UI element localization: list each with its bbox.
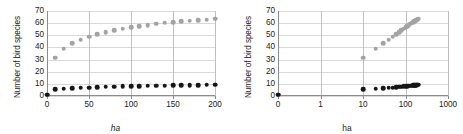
data-point [213,17,218,22]
data-point [179,83,184,88]
data-point [361,55,366,60]
plot-area-log [278,11,448,96]
data-point [204,83,209,88]
data-point [95,32,100,37]
x-tick-mark [131,96,132,99]
y-tick-label: 10 [255,80,275,88]
data-point [188,83,193,88]
data-point [146,84,151,89]
data-point [381,86,386,91]
data-point [162,20,167,25]
x-tick-label: 100 [116,100,146,109]
data-point [204,17,209,22]
species-area-figure: Number of bird species 010203040506070 0… [0,0,463,134]
data-point [373,86,378,91]
y-tick-label: 30 [24,56,44,64]
gridline-vertical [448,11,449,96]
data-point [171,20,176,25]
data-point [416,17,421,22]
data-point [213,82,218,87]
data-point [104,85,109,90]
y-tick-label: 10 [24,80,44,88]
data-point [87,85,92,90]
y-tick-label: 40 [24,43,44,51]
x-tick-mark [363,96,364,99]
x-tick-mark [215,96,216,99]
data-point [179,19,184,24]
data-point [112,84,117,89]
data-point [95,85,100,90]
y-tick-label: 0 [255,92,275,100]
y-tick-label: 50 [255,31,275,39]
data-point [373,46,378,51]
data-point [137,84,142,89]
y-tick-label: 60 [255,19,275,27]
y-tick-label: 60 [24,19,44,27]
data-point [196,18,201,23]
x-tick-label: 0 [32,100,62,109]
x-axis-title: ha [0,123,231,133]
data-point [196,83,201,88]
data-point [70,86,75,91]
x-tick-mark [89,96,90,99]
y-tick-label: 50 [24,31,44,39]
y-axis-line [47,11,48,96]
data-point [120,26,125,31]
data-point [70,41,75,46]
gridline-vertical [321,11,322,96]
data-point [129,25,134,30]
data-point [112,28,117,33]
data-point [53,55,58,60]
data-point [188,18,193,23]
data-point [120,84,125,89]
x-tick-mark [321,96,322,99]
y-tick-labels-linear: 010203040506070 [22,11,44,96]
data-point [146,23,151,28]
gridline-vertical [89,11,90,96]
x-tick-mark [448,96,449,99]
data-point [381,41,386,46]
y-tick-label: 20 [255,68,275,76]
data-point [137,24,142,29]
chart-panel-log: Number of bird species 010203040506070 0… [231,0,463,134]
x-tick-label: 10 [348,100,378,109]
data-point [45,92,50,97]
x-axis-title: ha [231,123,463,133]
data-point [53,87,58,92]
data-point [276,92,281,97]
chart-panel-linear: Number of bird species 010203040506070 0… [0,0,231,134]
plot-area-linear [47,11,215,96]
x-tick-label: 100 [391,100,421,109]
x-tick-label: 0 [263,100,293,109]
x-tick-label: 1000 [433,100,463,109]
x-tick-labels-log: 01101001000 [278,100,448,112]
x-tick-mark [173,96,174,99]
data-point [162,83,167,88]
y-tick-label: 70 [24,7,44,15]
y-tick-label: 20 [24,68,44,76]
data-point [361,87,366,92]
y-tick-label: 0 [24,92,44,100]
y-tick-label: 40 [255,43,275,51]
data-point [129,84,134,89]
x-tick-label: 200 [200,100,230,109]
data-point [62,86,67,91]
data-point [104,30,109,35]
y-axis-line [278,11,279,96]
y-tick-label: 70 [255,7,275,15]
data-point [154,21,159,26]
x-tick-mark [406,96,407,99]
data-point [78,37,83,42]
y-tick-label: 30 [255,56,275,64]
x-tick-label: 50 [74,100,104,109]
data-point [87,34,92,39]
data-point [171,83,176,88]
data-point [416,82,421,87]
data-point [78,85,83,90]
x-tick-label: 150 [158,100,188,109]
data-point [154,83,159,88]
x-tick-labels-linear: 050100150200 [47,100,215,112]
y-tick-labels-log: 010203040506070 [253,11,275,96]
gridline-vertical [363,11,364,96]
data-point [62,46,67,51]
